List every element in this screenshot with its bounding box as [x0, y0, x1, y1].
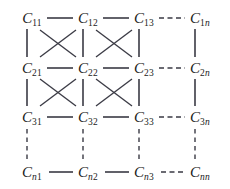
node-cn2: Cn2	[77, 165, 99, 180]
node-cnn: Cnn	[189, 165, 211, 180]
graph-edges-canvas	[0, 0, 230, 189]
lattice-graph-figure: C11 C12 C13 C1n C21 C22 C23 C2n C31 C32 …	[0, 0, 230, 189]
vertical-dashed-edges	[27, 129, 195, 160]
node-c2n: C2n	[189, 61, 211, 76]
node-cn3: Cn3	[133, 165, 155, 180]
node-c11: C11	[21, 11, 43, 26]
node-c22: C22	[77, 61, 99, 76]
node-c21: C21	[21, 61, 43, 76]
node-c13: C13	[133, 11, 155, 26]
horizontal-dashed-edges	[159, 18, 185, 172]
node-c31: C31	[21, 110, 43, 125]
node-c12: C12	[77, 11, 99, 26]
node-c23: C23	[133, 61, 155, 76]
node-c32: C32	[77, 110, 99, 125]
node-cn1: Cn1	[21, 165, 43, 180]
node-c1n: C1n	[189, 11, 211, 26]
node-c3n: C3n	[189, 110, 211, 125]
node-c33: C33	[133, 110, 155, 125]
